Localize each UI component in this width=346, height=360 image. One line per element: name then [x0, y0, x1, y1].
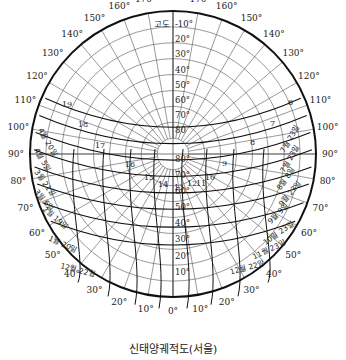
azimuth-label: 150°	[241, 13, 263, 23]
azimuth-label: 40°	[266, 269, 282, 279]
azimuth-label: 60°	[29, 228, 45, 238]
azimuth-label: 50°	[285, 250, 301, 260]
azimuth-label: 10°	[192, 304, 208, 314]
azimuth-label: 50°	[45, 250, 61, 260]
hour-label: 14	[158, 180, 168, 189]
azimuth-label: 160°	[216, 1, 238, 11]
azimuth-label: 120°	[298, 71, 320, 81]
azimuth-label: 20°	[219, 297, 235, 307]
altitude-label: 10°	[175, 267, 190, 277]
azimuth-label: 160°	[108, 1, 130, 11]
altitude-label: -10°	[175, 19, 193, 29]
altitude-label: 50°	[175, 202, 190, 212]
azimuth-line	[181, 30, 245, 140]
hour-label: 16	[125, 160, 135, 169]
altitude-label: 30°	[175, 49, 190, 59]
azimuth-line	[102, 30, 166, 140]
hour-label: 10	[205, 173, 215, 182]
azimuth-label: 110°	[310, 95, 332, 105]
altitude-label: 50°	[175, 80, 190, 90]
altitude-header: 고도	[154, 19, 170, 29]
hour-label: 15	[144, 173, 154, 182]
azimuth-label: 80°	[10, 176, 26, 186]
azimuth-label: 100°	[317, 122, 339, 132]
azimuth-label: 170°	[189, 0, 211, 4]
diagram-caption: 신태양궤적도(서울)	[0, 340, 346, 356]
sun-path-diagram: 180°170°170°160°160°150°150°140°140°130°…	[0, 0, 346, 360]
azimuth-label: 120°	[26, 71, 48, 81]
azimuth-label: 150°	[84, 13, 106, 23]
azimuth-label: 130°	[282, 48, 304, 58]
hour-label: 8	[250, 138, 255, 147]
altitude-label: 30°	[175, 234, 190, 244]
polar-grid	[30, 11, 316, 297]
azimuth-label: 90°	[322, 149, 338, 159]
azimuth-label: 90°	[8, 149, 24, 159]
azimuth-label: 30°	[87, 285, 103, 295]
azimuth-label: 70°	[17, 203, 33, 213]
azimuth-label: 140°	[263, 29, 285, 39]
hour-label: 18	[78, 120, 88, 129]
hour-label: 17	[95, 141, 105, 150]
hour-label: 12	[187, 179, 197, 188]
azimuth-label: 140°	[61, 29, 83, 39]
azimuth-label: 10°	[138, 304, 154, 314]
azimuth-label: 70°	[313, 203, 329, 213]
azimuth-label: 80°	[320, 176, 336, 186]
azimuth-line	[148, 13, 170, 138]
hour-label: 13	[174, 183, 184, 192]
altitude-label: 20°	[175, 34, 190, 44]
hour-label: 6	[288, 98, 293, 107]
azimuth-label: 130°	[42, 48, 64, 58]
azimuth-label: 60°	[301, 228, 317, 238]
azimuth-label: 110°	[15, 95, 37, 105]
altitude-label: 40°	[175, 65, 190, 75]
hour-label: 11	[196, 179, 206, 188]
hour-label: 19	[62, 100, 72, 109]
altitude-label: 80	[175, 125, 186, 135]
azimuth-label: 100°	[8, 122, 30, 132]
altitude-label: 40°	[175, 218, 190, 228]
hour-label: 9	[222, 159, 227, 168]
altitude-label: 20°	[175, 251, 190, 261]
altitude-label: 60°	[175, 95, 190, 105]
azimuth-label: 180°	[162, 0, 184, 2]
hour-label: 7	[270, 119, 275, 128]
azimuth-label: 0°	[168, 306, 178, 316]
altitude-label: 80°	[175, 154, 190, 164]
azimuth-label: 170°	[135, 0, 157, 4]
azimuth-label: 20°	[111, 297, 127, 307]
azimuth-label: 30°	[244, 285, 260, 295]
altitude-label: 70°	[175, 110, 190, 120]
